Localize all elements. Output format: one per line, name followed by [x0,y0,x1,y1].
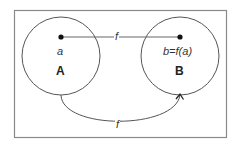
set-a-label: A [56,65,65,77]
mapping-curve [61,95,180,121]
mapping-label-bottom: f [115,119,120,130]
diagram-canvas: f f a A b=f(a) B [0,0,237,148]
set-b-label: B [175,65,184,77]
element-b-label: b=f(a) [163,46,192,57]
element-b-dot [177,34,182,39]
element-a-dot [58,34,63,39]
mapping-label-top: f [114,31,119,42]
element-a-label: a [57,46,63,57]
frame-border [15,11,227,138]
